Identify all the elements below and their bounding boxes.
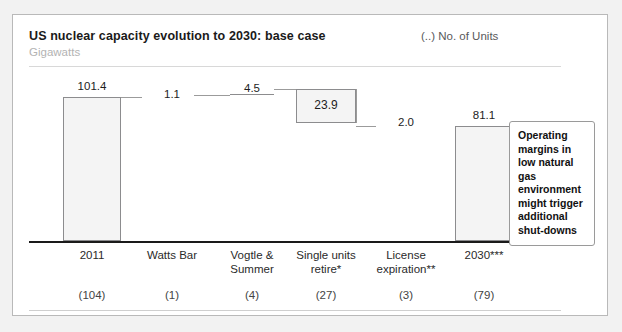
- category-label: Single units retire*: [286, 248, 366, 276]
- category-label: 2030***: [444, 248, 524, 262]
- category-label: Vogtle & Summer: [212, 248, 292, 276]
- bar-value-label: 2.0: [376, 116, 436, 128]
- callout-annotation: Operating margins in low natural gas env…: [509, 121, 595, 246]
- bar-value-label: 1.1: [142, 88, 202, 100]
- footer-divider: [29, 310, 561, 311]
- category-label: License expiration**: [366, 248, 446, 276]
- waterfall-bar: [63, 97, 121, 241]
- category-label: Watts Bar: [132, 248, 212, 262]
- unit-count-label: (79): [449, 289, 519, 301]
- unit-count-label: (1): [137, 289, 207, 301]
- bar-value-label: 81.1: [450, 109, 518, 121]
- unit-count-label: (4): [217, 289, 287, 301]
- waterfall-connector: [194, 95, 230, 96]
- unit-count-label: (104): [57, 289, 127, 301]
- screenshot-root: US nuclear capacity evolution to 2030: b…: [0, 0, 622, 332]
- chart-card: US nuclear capacity evolution to 2030: b…: [12, 14, 608, 316]
- bar-value-label: 23.9: [296, 98, 356, 112]
- bar-value-label: 4.5: [222, 82, 282, 94]
- category-axis-line: [29, 241, 525, 243]
- category-label: 2011: [52, 248, 132, 262]
- unit-count-label: (3): [371, 289, 441, 301]
- waterfall-drop-connector: [356, 89, 357, 123]
- waterfall-bar: [455, 126, 514, 241]
- bar-value-label: 101.4: [58, 80, 126, 92]
- unit-count-label: (27): [291, 289, 361, 301]
- waterfall-connector: [274, 89, 296, 90]
